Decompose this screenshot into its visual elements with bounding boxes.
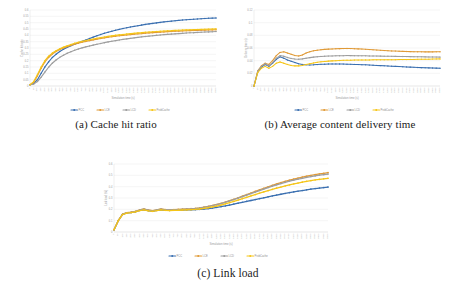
svg-text:0.5: 0.5 — [109, 173, 113, 177]
svg-text:1700: 1700 — [154, 87, 156, 93]
svg-text:2200: 2200 — [300, 233, 302, 239]
svg-text:0.2: 0.2 — [109, 207, 113, 211]
svg-text:1250: 1250 — [345, 87, 347, 93]
svg-text:1150: 1150 — [338, 87, 340, 93]
svg-text:LCE: LCE — [105, 108, 110, 112]
svg-text:2200: 2200 — [416, 87, 418, 93]
svg-text:2300: 2300 — [423, 87, 425, 93]
svg-text:1650: 1650 — [375, 87, 377, 93]
svg-text:1000: 1000 — [198, 233, 200, 239]
svg-text:600: 600 — [163, 233, 165, 238]
svg-text:0.15: 0.15 — [23, 65, 29, 69]
svg-text:1600: 1600 — [371, 87, 373, 93]
svg-text:0.6: 0.6 — [25, 8, 29, 12]
svg-text:2000: 2000 — [401, 87, 403, 93]
svg-text:1500: 1500 — [240, 233, 242, 239]
svg-text:Delivery time (s): Delivery time (s) — [244, 38, 248, 58]
svg-text:150: 150 — [39, 87, 41, 92]
line-chart-b: 00.020.040.060.080.10.120501001502002503… — [232, 4, 448, 116]
svg-text:0.55: 0.55 — [23, 14, 29, 18]
svg-text:1850: 1850 — [270, 233, 272, 239]
svg-text:2150: 2150 — [296, 233, 298, 239]
figure-container: 00.050.10.150.20.250.30.350.40.450.50.55… — [0, 0, 456, 298]
svg-text:750: 750 — [308, 87, 310, 92]
svg-text:0.25: 0.25 — [23, 52, 29, 56]
svg-text:2450: 2450 — [210, 87, 212, 93]
svg-text:1300: 1300 — [125, 87, 127, 93]
svg-text:450: 450 — [151, 233, 153, 238]
svg-text:1050: 1050 — [330, 87, 332, 93]
svg-text:1950: 1950 — [397, 87, 399, 93]
svg-text:Simulation time (s): Simulation time (s) — [111, 96, 134, 100]
svg-text:1000: 1000 — [102, 87, 104, 93]
svg-text:550: 550 — [293, 87, 295, 92]
svg-text:900: 900 — [189, 233, 191, 238]
svg-text:1850: 1850 — [166, 87, 168, 93]
svg-text:250: 250 — [47, 87, 49, 92]
svg-text:0.1: 0.1 — [25, 71, 29, 75]
svg-text:1450: 1450 — [136, 87, 138, 93]
chart-panel-b: 00.020.040.060.080.10.120501001502002503… — [232, 4, 448, 150]
svg-text:650: 650 — [168, 233, 170, 238]
svg-text:350: 350 — [54, 87, 56, 92]
svg-text:700: 700 — [80, 87, 82, 92]
svg-text:1900: 1900 — [169, 87, 171, 93]
svg-text:1150: 1150 — [210, 233, 212, 239]
svg-text:LCD: LCD — [229, 254, 234, 258]
svg-text:2350: 2350 — [203, 87, 205, 93]
svg-text:2250: 2250 — [305, 233, 307, 239]
svg-text:Link load (%): Link load (%) — [104, 190, 108, 206]
svg-text:1550: 1550 — [245, 233, 247, 239]
svg-text:1750: 1750 — [158, 87, 160, 93]
svg-text:2400: 2400 — [431, 87, 433, 93]
svg-text:750: 750 — [84, 87, 86, 92]
svg-text:1150: 1150 — [114, 87, 116, 93]
svg-text:1950: 1950 — [173, 87, 175, 93]
svg-text:1900: 1900 — [393, 87, 395, 93]
svg-text:350: 350 — [278, 87, 280, 92]
svg-text:2450: 2450 — [434, 87, 436, 93]
svg-text:700: 700 — [304, 87, 306, 92]
svg-text:1900: 1900 — [275, 233, 277, 239]
svg-text:0.1: 0.1 — [109, 219, 113, 223]
svg-text:1550: 1550 — [143, 87, 145, 93]
svg-text:2300: 2300 — [199, 87, 201, 93]
svg-text:2250: 2250 — [419, 87, 421, 93]
svg-text:1300: 1300 — [349, 87, 351, 93]
svg-text:800: 800 — [88, 87, 90, 92]
svg-text:0.5: 0.5 — [25, 21, 29, 25]
svg-text:1750: 1750 — [382, 87, 384, 93]
svg-text:1050: 1050 — [106, 87, 108, 93]
svg-text:2100: 2100 — [184, 87, 186, 93]
svg-text:2500: 2500 — [438, 87, 440, 93]
svg-text:1100: 1100 — [110, 87, 112, 93]
svg-text:1100: 1100 — [206, 233, 208, 239]
plot-area-c: 00.10.20.30.40.50.6050100150200250300350… — [88, 158, 368, 262]
svg-text:900: 900 — [95, 87, 97, 92]
svg-text:900: 900 — [319, 87, 321, 92]
svg-text:2500: 2500 — [214, 87, 216, 93]
svg-text:2350: 2350 — [427, 87, 429, 93]
svg-text:1200: 1200 — [341, 87, 343, 93]
svg-text:1700: 1700 — [258, 233, 260, 239]
svg-text:2100: 2100 — [292, 233, 294, 239]
svg-text:Cache hit ratio: Cache hit ratio — [20, 39, 24, 57]
svg-text:300: 300 — [274, 87, 276, 92]
svg-text:0.45: 0.45 — [23, 27, 29, 31]
svg-text:0.35: 0.35 — [23, 40, 29, 44]
svg-text:650: 650 — [300, 87, 302, 92]
svg-text:1650: 1650 — [253, 233, 255, 239]
svg-text:100: 100 — [259, 87, 261, 92]
svg-text:0: 0 — [111, 230, 113, 234]
svg-text:0.06: 0.06 — [247, 46, 253, 50]
svg-text:1050: 1050 — [202, 233, 204, 239]
svg-text:0.4: 0.4 — [25, 33, 29, 37]
chart-panel-a: 00.050.10.150.20.250.30.350.40.450.50.55… — [8, 4, 224, 150]
svg-text:1600: 1600 — [249, 233, 251, 239]
svg-text:550: 550 — [159, 233, 161, 238]
svg-text:2300: 2300 — [309, 233, 311, 239]
svg-text:300: 300 — [138, 233, 140, 238]
svg-text:300: 300 — [50, 87, 52, 92]
svg-text:2400: 2400 — [317, 233, 319, 239]
svg-text:2050: 2050 — [181, 87, 183, 93]
